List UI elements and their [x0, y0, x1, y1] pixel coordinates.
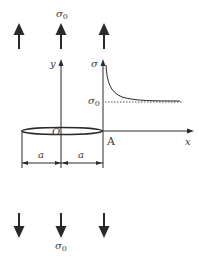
origin-label: O — [52, 126, 60, 137]
arrow-up-icon — [14, 23, 25, 49]
sigma0-level-label: σ0 — [88, 95, 100, 108]
y-axis-label: y — [49, 58, 56, 69]
arrow-down-icon — [14, 213, 25, 238]
bottom-tension-arrows — [14, 213, 110, 238]
arrow-up-icon — [56, 23, 67, 49]
half-length-left-label: a — [38, 149, 44, 160]
x-axis — [102, 129, 194, 134]
sigma-axis-label: σ — [91, 58, 99, 69]
crack-stress-diagram: σ0 y σ σ0 x O A — [0, 0, 199, 262]
x-axis-label: x — [185, 136, 191, 147]
bottom-stress-label: σ0 — [55, 240, 67, 253]
half-length-right-label: a — [78, 149, 84, 160]
crack-ellipse — [22, 128, 102, 135]
arrow-up-icon — [99, 23, 110, 49]
top-stress-label: σ0 — [56, 8, 68, 21]
sigma-axis — [101, 59, 106, 168]
dimension-left — [22, 161, 61, 165]
dimension-right — [61, 161, 103, 165]
y-axis — [59, 59, 64, 168]
point-a-label: A — [106, 135, 116, 148]
arrow-down-icon — [99, 213, 110, 238]
stress-distribution-curve — [106, 65, 180, 101]
top-tension-arrows — [14, 23, 110, 49]
arrow-down-icon — [56, 213, 67, 238]
